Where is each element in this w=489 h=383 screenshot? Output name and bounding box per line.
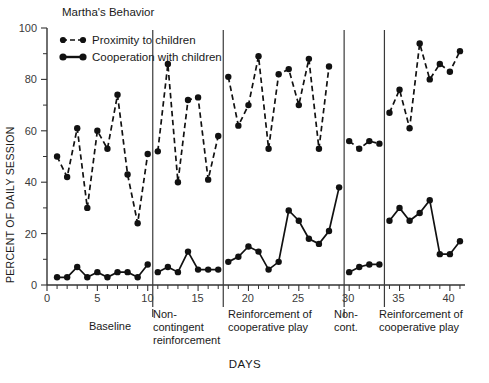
phase-label-noncontingent: Non- contingent reinforcement	[153, 308, 220, 346]
legend-swatch-proximity	[60, 37, 86, 43]
data-point	[255, 248, 261, 254]
series-cooperation	[54, 184, 463, 280]
x-tick-label-15: 15	[191, 292, 203, 304]
data-point	[356, 264, 362, 270]
data-point	[94, 128, 100, 134]
data-point	[275, 259, 281, 265]
data-point	[306, 56, 312, 62]
data-point	[366, 138, 372, 144]
legend-label-proximity: Proximity to children	[92, 34, 196, 46]
y-tick-label-20: 20	[25, 228, 37, 240]
data-point	[376, 140, 382, 146]
data-point	[124, 171, 130, 177]
data-point	[296, 102, 302, 108]
data-point	[124, 269, 130, 275]
data-point	[406, 125, 412, 131]
x-axis-title: DAYS	[229, 358, 261, 370]
page-title: Martha's Behavior	[62, 6, 154, 18]
data-point	[406, 218, 412, 224]
data-point	[235, 122, 241, 128]
data-point	[114, 92, 120, 98]
data-point	[457, 48, 463, 54]
data-point	[356, 146, 362, 152]
data-point	[427, 76, 433, 82]
data-point	[336, 184, 342, 190]
series-proximity	[54, 40, 463, 226]
phase-label-baseline: Baseline	[89, 320, 131, 332]
data-point	[306, 236, 312, 242]
phase-baseline-line1: Baseline	[89, 320, 131, 332]
martha-behavior-chart: Martha's Behavior PERCENT OF DAILY SESSI…	[0, 0, 489, 383]
data-point	[225, 74, 231, 80]
y-tick-label-100: 100	[19, 22, 37, 34]
data-point	[64, 274, 70, 280]
data-point	[316, 241, 322, 247]
data-point	[447, 251, 453, 257]
data-point	[94, 269, 100, 275]
data-point	[245, 243, 251, 249]
phase-noncont-line2: contingent	[153, 321, 204, 333]
data-point	[386, 218, 392, 224]
phase-reinforce1-line2: cooperative play	[228, 321, 309, 333]
data-point	[104, 274, 110, 280]
chart-legend: Proximity to children Cooperation with c…	[59, 34, 221, 63]
data-point	[215, 133, 221, 139]
data-point	[265, 266, 271, 272]
data-point	[255, 53, 261, 59]
data-point	[437, 251, 443, 257]
y-tick-label-60: 60	[25, 125, 37, 137]
legend-label-cooperation: Cooperation with children	[92, 51, 222, 63]
data-point	[316, 146, 322, 152]
data-point	[74, 264, 80, 270]
data-point	[296, 218, 302, 224]
phase-noncont2-line2: cont.	[334, 321, 358, 333]
phase-noncont-line3: reinforcement	[153, 334, 220, 346]
data-point	[195, 266, 201, 272]
phase-noncont2-line1: Non-	[334, 308, 358, 320]
data-point	[427, 197, 433, 203]
data-point	[205, 266, 211, 272]
data-point	[155, 148, 161, 154]
data-point	[54, 153, 60, 159]
data-point	[134, 274, 140, 280]
data-point	[326, 228, 332, 234]
series-layer	[54, 40, 463, 280]
data-point	[185, 97, 191, 103]
data-point	[235, 254, 241, 260]
data-point	[185, 248, 191, 254]
data-point	[286, 207, 292, 213]
y-axis-title: PERCENT OF DAILY SESSION	[4, 126, 16, 283]
data-point	[416, 40, 422, 46]
data-point	[155, 269, 161, 275]
data-point	[447, 68, 453, 74]
data-point	[396, 205, 402, 211]
data-point	[114, 269, 120, 275]
y-tick-label-80: 80	[25, 73, 37, 85]
x-tick-label-25: 25	[292, 292, 304, 304]
data-point	[346, 138, 352, 144]
phase-reinforce2-line2: cooperative play	[379, 321, 460, 333]
data-point	[215, 266, 221, 272]
data-point	[74, 125, 80, 131]
data-point	[54, 274, 60, 280]
data-point	[286, 66, 292, 72]
phase-label-reinforcement-2: Reinforcement of cooperative play	[379, 308, 464, 333]
data-point	[366, 261, 372, 267]
data-point	[175, 179, 181, 185]
y-tick-label-40: 40	[25, 176, 37, 188]
data-point	[205, 176, 211, 182]
legend-swatch-cooperation	[59, 53, 86, 60]
data-point	[416, 210, 422, 216]
phase-noncont-line1: Non-	[153, 308, 177, 320]
data-point	[145, 261, 151, 267]
phase-label-reinforcement-1: Reinforcement of cooperative play	[228, 308, 313, 333]
data-point	[145, 151, 151, 157]
data-point	[265, 146, 271, 152]
x-tick-label-40: 40	[442, 292, 454, 304]
data-point	[195, 94, 201, 100]
data-point	[386, 110, 392, 116]
data-point	[245, 102, 251, 108]
phase-label-noncont-2: Non- cont.	[334, 308, 358, 333]
data-point	[225, 259, 231, 265]
y-axis-ticks	[41, 28, 47, 285]
